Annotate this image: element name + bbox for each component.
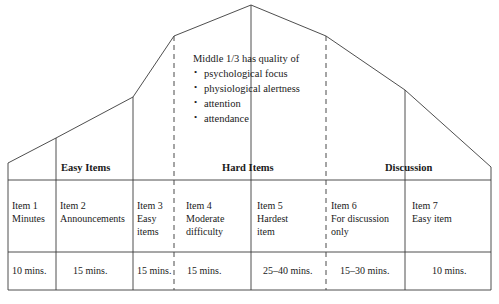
section-heading-hard-items: Hard Items [222, 162, 274, 173]
callout-item-label: attention [204, 98, 241, 109]
duration-item-3: 15 mins. [137, 265, 171, 276]
section-heading-discussion: Discussion [385, 162, 432, 173]
item-desc-line2: items [137, 225, 163, 238]
callout-item-label: psychological focus [204, 68, 288, 79]
duration-item-6: 15–30 mins. [340, 265, 389, 276]
middle-third-callout: Middle 1/3 has quality of • psychologica… [193, 52, 300, 127]
item-title: Item 3 [137, 199, 163, 212]
duration-item-4: 15 mins. [187, 265, 221, 276]
callout-item-label: physiological alertness [204, 83, 300, 94]
diagram-root: Middle 1/3 has quality of • psychologica… [0, 0, 499, 304]
item-desc-line2: only [331, 225, 389, 238]
item-title: Item 1 [12, 199, 45, 212]
callout-item: • attention [193, 97, 300, 112]
duration-item-1: 10 mins. [12, 265, 46, 276]
item-desc-line1: Minutes [12, 212, 45, 225]
item-title: Item 7 [412, 199, 452, 212]
callout-lead: Middle 1/3 has quality of [193, 52, 300, 67]
table-cell-item-4: Item 4 Moderate difficulty [186, 199, 224, 238]
bullet-icon: • [194, 111, 197, 124]
item-title: Item 2 [60, 199, 125, 212]
bullet-icon: • [194, 96, 197, 109]
bullet-icon: • [194, 66, 197, 79]
envelope-outline [8, 5, 491, 290]
pacing-curve-svg [0, 0, 499, 304]
duration-item-2: 15 mins. [73, 265, 107, 276]
item-title: Item 6 [331, 199, 389, 212]
item-desc-line1: Announcements [60, 212, 125, 225]
bullet-icon: • [194, 81, 197, 94]
item-desc-line1: Easy [137, 212, 163, 225]
table-cell-item-2: Item 2 Announcements [60, 199, 125, 225]
item-desc-line1: Hardest [257, 212, 288, 225]
item-desc-line1: For discussion [331, 212, 389, 225]
callout-list: • psychological focus • physiological al… [193, 67, 300, 127]
table-cell-item-1: Item 1 Minutes [12, 199, 45, 225]
duration-item-7: 10 mins. [432, 265, 466, 276]
duration-item-5: 25–40 mins. [263, 265, 312, 276]
section-heading-easy-items: Easy Items [61, 162, 110, 173]
callout-item: • psychological focus [193, 67, 300, 82]
callout-item: • physiological alertness [193, 82, 300, 97]
table-cell-item-6: Item 6 For discussion only [331, 199, 389, 238]
table-cell-item-5: Item 5 Hardest item [257, 199, 288, 238]
table-cell-item-7: Item 7 Easy item [412, 199, 452, 225]
item-desc-line2: item [257, 225, 288, 238]
callout-item-label: attendance [204, 113, 249, 124]
table-cell-item-3: Item 3 Easy items [137, 199, 163, 238]
item-title: Item 5 [257, 199, 288, 212]
callout-item: • attendance [193, 112, 300, 127]
item-title: Item 4 [186, 199, 224, 212]
item-desc-line1: Moderate [186, 212, 224, 225]
item-desc-line2: difficulty [186, 225, 224, 238]
item-desc-line1: Easy item [412, 212, 452, 225]
